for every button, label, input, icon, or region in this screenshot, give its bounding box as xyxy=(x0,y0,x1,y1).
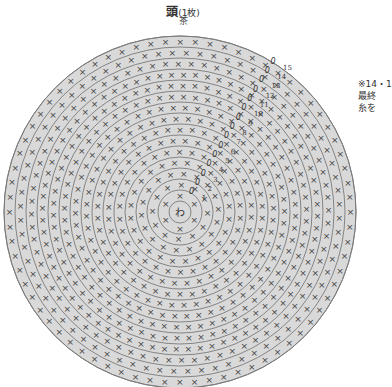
stitch-symbol: × xyxy=(227,257,235,267)
stitch-symbol: × xyxy=(257,109,265,119)
magic-ring-label: わ xyxy=(175,207,185,218)
stitch-symbol: × xyxy=(218,265,226,275)
stitch-symbol: × xyxy=(155,49,163,59)
stitch-symbol: × xyxy=(185,333,193,343)
stitch-symbol: × xyxy=(107,144,115,154)
stitch-symbol: × xyxy=(66,337,74,347)
stitch-symbol: × xyxy=(133,77,141,87)
stitch-symbol: × xyxy=(236,213,244,223)
stitch-symbol: × xyxy=(151,152,159,162)
stitch-symbol: × xyxy=(79,288,87,298)
stitch-symbol: × xyxy=(246,225,254,235)
stitch-symbol: × xyxy=(127,213,135,223)
stitch-symbol: × xyxy=(18,229,26,239)
stitch-symbol: × xyxy=(255,157,263,167)
stitch-symbol: × xyxy=(311,234,319,244)
stitch-symbol: × xyxy=(285,246,293,256)
stitch-symbol: × xyxy=(132,248,140,258)
stitch-symbol: × xyxy=(208,119,216,129)
stitch-symbol: × xyxy=(280,194,288,204)
stitch-symbol: × xyxy=(182,103,190,113)
stitch-symbol: × xyxy=(245,188,253,198)
stitch-symbol: × xyxy=(302,152,310,162)
stitch-symbol: × xyxy=(51,222,59,232)
stitch-symbol: × xyxy=(59,135,67,145)
stitch-symbol: × xyxy=(270,253,278,263)
stitch-symbol: × xyxy=(261,355,269,365)
stitch-symbol: × xyxy=(204,72,212,82)
stitch-symbol: × xyxy=(50,210,58,220)
stitch-symbol: × xyxy=(207,229,215,239)
stitch-symbol: × xyxy=(11,251,19,261)
stitch-symbol: × xyxy=(279,298,287,308)
stitch-symbol: × xyxy=(163,148,171,158)
stitch-symbol: × xyxy=(168,92,176,102)
stitch-symbol: × xyxy=(140,133,148,143)
stitch-symbol: × xyxy=(264,264,272,274)
stitch-symbol: × xyxy=(314,211,322,221)
stitch-symbol: × xyxy=(48,157,56,167)
stitch-symbol: × xyxy=(272,142,280,152)
stitch-symbol: × xyxy=(96,189,104,199)
stitch-symbol: × xyxy=(149,331,157,341)
stitch-symbol: × xyxy=(248,166,256,176)
stitch-symbol: × xyxy=(144,73,152,83)
stitch-symbol: × xyxy=(322,180,330,190)
stitch-symbol: × xyxy=(297,121,305,131)
stitch-symbol: × xyxy=(167,81,175,91)
stitch-symbol: × xyxy=(234,225,242,235)
stitch-symbol: × xyxy=(89,265,97,275)
stitch-symbol: × xyxy=(136,64,144,74)
stitch-symbol: × xyxy=(167,170,175,180)
stitch-symbol: × xyxy=(188,59,196,69)
stitch-symbol: × xyxy=(237,96,245,106)
stitch-symbol: × xyxy=(17,201,25,211)
stitch-symbol: × xyxy=(68,168,76,178)
stitch-symbol: × xyxy=(145,143,153,153)
stitch-symbol: × xyxy=(96,225,104,235)
stitch-symbol: × xyxy=(116,318,124,328)
stitch-symbol: × xyxy=(155,82,163,92)
stitch-symbol: × xyxy=(247,200,255,210)
stitch-symbol: × xyxy=(215,98,223,108)
stitch-symbol: × xyxy=(97,257,105,267)
stitch-symbol: × xyxy=(191,199,199,209)
stitch-symbol: × xyxy=(32,170,40,180)
stitch-symbol: × xyxy=(177,267,185,277)
stitch-symbol: × xyxy=(165,355,173,365)
stitch-symbol: × xyxy=(144,96,152,106)
stitch-symbol: × xyxy=(42,293,50,303)
stitch-symbol: × xyxy=(100,92,108,102)
stitch-symbol: × xyxy=(75,232,83,242)
stitch-symbol: × xyxy=(191,81,199,91)
stitch-symbol: × xyxy=(87,235,95,245)
stitch-symbol: × xyxy=(28,209,36,219)
stitch-symbol: × xyxy=(91,59,99,69)
stitch-symbol: × xyxy=(274,171,282,181)
stitch-symbol: × xyxy=(37,259,45,269)
stitch-symbol: × xyxy=(245,270,253,280)
stitch-symbol: × xyxy=(90,73,98,83)
stitch-symbol: × xyxy=(257,274,265,284)
stitch-symbol: × xyxy=(178,355,186,365)
stitch-symbol: × xyxy=(200,286,208,296)
stitch-symbol: × xyxy=(157,104,165,114)
stitch-symbol: × xyxy=(225,214,233,224)
stitch-symbol: × xyxy=(293,99,301,109)
stitch-symbol: × xyxy=(63,227,71,237)
stitch-symbol: × xyxy=(124,238,132,248)
stitch-symbol: × xyxy=(185,322,193,332)
stitch-symbol: × xyxy=(211,158,219,168)
stitch-symbol: × xyxy=(258,213,266,223)
stitch-symbol: × xyxy=(281,206,289,216)
stitch-symbol: × xyxy=(94,213,102,223)
stitch-symbol: × xyxy=(6,222,14,232)
stitch-symbol: × xyxy=(220,337,228,347)
stitch-symbol: × xyxy=(193,172,201,182)
stitch-symbol: × xyxy=(241,258,249,268)
stitch-symbol: × xyxy=(93,164,101,174)
stitch-symbol: × xyxy=(121,93,129,103)
stitch-symbol: × xyxy=(24,256,32,266)
stitch-symbol: × xyxy=(85,310,93,320)
stitch-symbol: × xyxy=(91,342,99,352)
